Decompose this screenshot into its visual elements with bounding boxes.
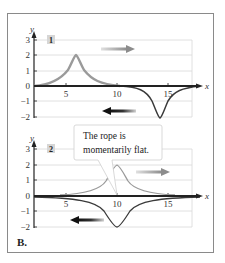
panel-2: y x 3 2 1 0 −1 −2 5 10 15 2 <box>20 125 209 232</box>
x-axis-arrow-icon <box>196 194 203 199</box>
svg-text:y: y <box>29 133 34 143</box>
svg-text:−1: −1 <box>20 96 30 106</box>
rightward-arrow-icon <box>101 45 135 53</box>
x-axis-arrow-icon <box>196 84 203 89</box>
callout-bubble: The rope is momentarily flat. <box>74 125 162 195</box>
panel-1: y x 3 2 1 0 −1 −2 5 10 15 1 <box>20 24 209 122</box>
svg-text:−1: −1 <box>20 206 30 216</box>
svg-text:15: 15 <box>164 89 174 99</box>
svg-text:2: 2 <box>26 160 31 170</box>
svg-text:10: 10 <box>113 199 123 209</box>
svg-text:3: 3 <box>26 35 31 45</box>
panel-2-label: 2 <box>49 145 53 154</box>
rightward-pulse <box>34 55 120 86</box>
svg-text:1: 1 <box>26 66 31 76</box>
svg-text:10: 10 <box>113 89 123 99</box>
svg-text:−2: −2 <box>20 222 30 232</box>
panel-1-label: 1 <box>49 36 53 45</box>
callout-text-line-1: The rope is <box>83 131 126 141</box>
leftward-arrow-icon <box>70 216 104 224</box>
svg-text:3: 3 <box>26 144 31 154</box>
rightward-arrow-icon <box>136 168 170 176</box>
svg-text:1: 1 <box>26 175 31 185</box>
x-axis-label: x <box>204 81 209 91</box>
svg-text:5: 5 <box>64 89 69 99</box>
svg-text:0: 0 <box>26 191 31 201</box>
svg-text:x: x <box>204 191 209 201</box>
callout-text-line-2: momentarily flat. <box>83 145 149 155</box>
y-axis-label: y <box>29 24 34 34</box>
figure-label: B. <box>17 236 27 248</box>
svg-text:0: 0 <box>26 81 31 91</box>
leftward-arrow-icon <box>102 107 136 115</box>
svg-text:−2: −2 <box>20 112 30 122</box>
svg-text:15: 15 <box>164 199 174 209</box>
svg-text:2: 2 <box>26 50 31 60</box>
leftward-pulse <box>120 86 200 118</box>
wave-pulse-diagram: y x 3 2 1 0 −1 −2 5 10 15 1 <box>0 0 225 263</box>
svg-text:5: 5 <box>64 199 69 209</box>
